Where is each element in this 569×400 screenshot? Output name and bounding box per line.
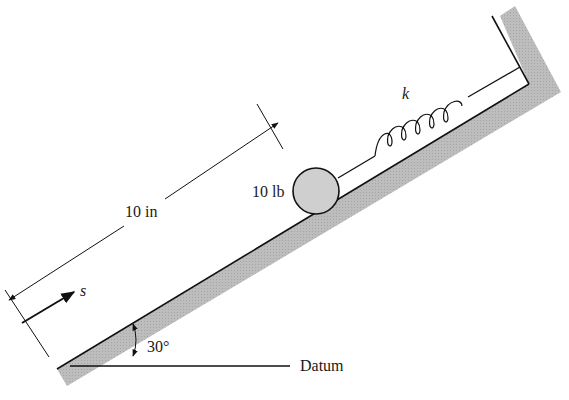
datum-label: Datum (300, 357, 344, 374)
spring-constant-label: k (402, 85, 410, 102)
incline-diagram: 10 in 10 lb k s 30° Datum (0, 0, 569, 400)
weight-label: 10 lb (252, 183, 284, 200)
ball (293, 168, 339, 214)
angle-label: 30° (147, 338, 169, 355)
displacement-label: s (80, 282, 86, 299)
distance-label: 10 in (125, 203, 157, 220)
